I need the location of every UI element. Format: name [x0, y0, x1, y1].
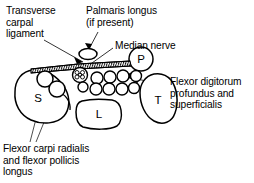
bone-letter-scaphoid: S: [34, 92, 42, 104]
label-median-nerve: Median nerve: [115, 40, 176, 52]
median-nerve-outline: [73, 68, 88, 83]
label-transverse-carpal-ligament: Transverse carpal ligament: [6, 5, 56, 40]
bone-letter-triquetrum: T: [154, 94, 161, 106]
bone-letter-lunate: L: [96, 108, 103, 120]
label-palmaris-longus: Palmaris longus (if present): [86, 5, 157, 28]
label-flexor-digitorum: Flexor digitorum profundus and superfici…: [170, 76, 241, 111]
palmaris-longus-tendon: [79, 49, 97, 60]
flexor-pollicis-longus-tendon: [49, 81, 65, 97]
carpal-tunnel-figure: S L T P Transverse carpal ligament Palma…: [0, 0, 254, 183]
leader-transverse-carpal-ligament: [44, 40, 83, 62]
label-flexor-carpi-radialis: Flexor carpi radialis and flexor pollici…: [3, 143, 89, 178]
bone-letter-pisiform: P: [137, 53, 145, 65]
